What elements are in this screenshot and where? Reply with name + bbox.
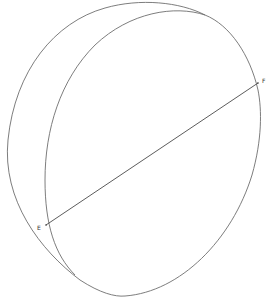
geometry-diagram: E F <box>0 0 270 305</box>
chord-ef <box>46 83 258 225</box>
outer-curve <box>7 2 260 296</box>
point-e-marker <box>45 224 47 226</box>
point-e-label: E <box>37 224 41 231</box>
inner-ellipse <box>45 11 205 275</box>
point-f-marker <box>257 82 259 84</box>
point-f-label: F <box>262 77 266 84</box>
